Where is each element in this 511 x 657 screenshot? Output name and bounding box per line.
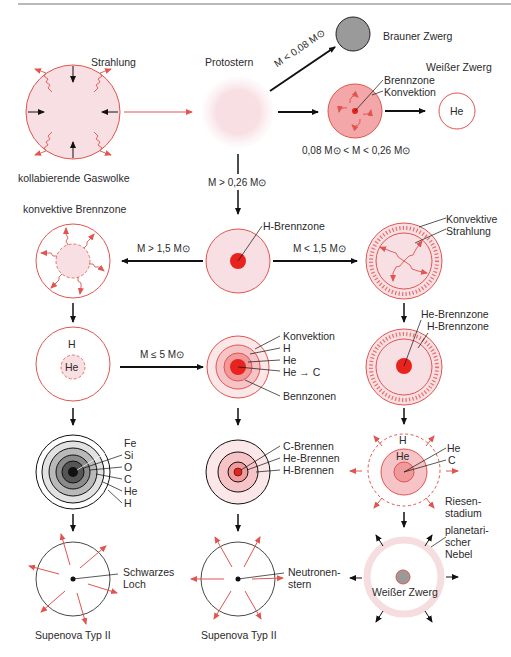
planetary-nebula xyxy=(350,535,458,622)
label-stadium: stadium xyxy=(445,507,482,519)
label-giant-he: He xyxy=(396,450,409,462)
he-core-star xyxy=(366,320,442,405)
label-big-condition: M > 1,5 M⊙ xyxy=(137,243,190,255)
label-le5-condition: M ≤ 5 M⊙ xyxy=(140,349,184,361)
label-less-condition: M < 1,5 M⊙ xyxy=(293,243,346,255)
label-scher: scher xyxy=(445,536,471,548)
label-strahlung: Strahlung xyxy=(91,56,136,68)
label-gaswolke: kollabierende Gaswolke xyxy=(18,172,129,184)
label-weisser-zwerg: Weißer Zwerg xyxy=(426,61,492,73)
label-he-brennen: He-Brennen xyxy=(283,452,340,464)
shell-burning-star xyxy=(206,440,280,504)
label-main-condition: M > 0,26 M⊙ xyxy=(208,177,266,189)
label-h-brennzone-2: H-Brennzone xyxy=(427,320,489,332)
label-bennzonen: Bennzonen xyxy=(283,390,336,402)
label-nebel: Nebel xyxy=(445,548,472,560)
label-supernova-1: Supenova Typ II xyxy=(35,629,111,641)
label-konvektive: Konvektive xyxy=(446,213,497,225)
label-giant-he-lbl: He xyxy=(447,442,460,454)
label-protostern: Protostern xyxy=(205,56,253,68)
small-convective-star xyxy=(328,80,383,138)
stellar-evolution-diagram: Strahlung kollabierende Gaswolke Protost… xyxy=(0,0,511,657)
label-wz-nebula: Weißer Zwerg xyxy=(372,586,438,598)
label-he: He xyxy=(65,361,78,373)
label-he-2: He xyxy=(283,354,296,366)
label-supernova-2: Supenova Typ II xyxy=(201,629,277,641)
label-small-condition: 0,08 M⊙ < M < 0,26 M⊙ xyxy=(302,145,410,157)
label-fe: Fe xyxy=(124,437,136,449)
label-schwarzes: Schwarzes xyxy=(123,566,174,578)
label-h-brennen: H-Brennen xyxy=(283,464,334,476)
label-konvektion-2: Konvektion xyxy=(283,330,335,342)
onion-shell-star xyxy=(36,435,122,509)
label-giant-c-lbl: C xyxy=(448,454,456,466)
label-giant-h: H xyxy=(399,434,407,446)
supernova-neutron-star xyxy=(191,537,284,619)
label-he-brennzone: He-Brennzone xyxy=(421,308,489,320)
label-planetari: planetari- xyxy=(445,524,489,536)
convective-core-star xyxy=(36,224,110,298)
label-he-white-dwarf: He xyxy=(450,105,463,117)
label-si: Si xyxy=(124,449,133,461)
label-brennzone: Brennzone xyxy=(384,74,435,86)
main-sequence-star xyxy=(206,226,270,293)
label-stern: stern xyxy=(288,578,311,590)
supernova-black-hole xyxy=(29,534,118,624)
gas-cloud xyxy=(26,65,120,159)
label-he-shell: He xyxy=(124,485,137,497)
label-c: C xyxy=(124,473,132,485)
label-h: H xyxy=(68,338,76,350)
label-konvektion: Konvektion xyxy=(384,86,436,98)
label-h-2: H xyxy=(283,342,291,354)
label-h-brennzone: H-Brennzone xyxy=(263,220,325,232)
label-o: O xyxy=(124,461,132,473)
label-konvektive-brennzone: konvektive Brennzone xyxy=(23,203,126,215)
layered-burning-star xyxy=(207,336,280,398)
label-strahlung-2: Strahlung xyxy=(446,225,491,237)
label-neutronen: Neutronen- xyxy=(288,566,341,578)
convective-envelope-star xyxy=(366,218,446,299)
label-loch: Loch xyxy=(123,578,146,590)
label-riesen: Riesen- xyxy=(445,495,481,507)
brown-dwarf xyxy=(336,17,370,51)
label-brauner-zwerg: Brauner Zwerg xyxy=(383,30,452,42)
label-c-brennen: C-Brennen xyxy=(283,440,334,452)
label-he-c: He → C xyxy=(283,366,320,378)
label-h-shell: H xyxy=(124,497,132,509)
protostar xyxy=(202,76,274,148)
